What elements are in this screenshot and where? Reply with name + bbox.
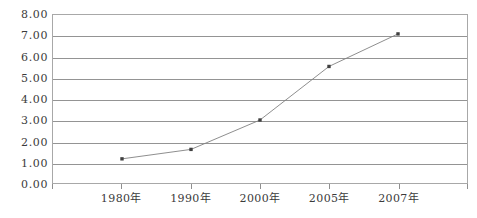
y-tick-label: 7.00	[2, 30, 48, 41]
x-axis-ticks	[52, 184, 468, 189]
y-tick-label: 0.00	[2, 179, 48, 190]
x-tick	[191, 184, 192, 189]
data-point-marker	[327, 65, 330, 68]
x-tick	[260, 184, 261, 189]
y-tick-label: 6.00	[2, 52, 48, 63]
x-tick	[121, 184, 122, 189]
data-point-marker	[396, 32, 399, 35]
data-point-marker	[120, 157, 123, 160]
y-tick-label: 5.00	[2, 73, 48, 84]
x-tick	[399, 184, 400, 189]
x-tick-label: 1980年	[101, 192, 142, 205]
data-point-marker	[258, 118, 261, 121]
y-tick-label: 8.00	[2, 9, 48, 20]
y-tick-label: 4.00	[2, 94, 48, 105]
x-tick-label: 2000年	[240, 192, 281, 205]
plot-area	[52, 14, 468, 184]
x-tick	[467, 184, 468, 189]
y-tick-label: 3.00	[2, 115, 48, 126]
y-axis: 0.001.002.003.004.005.006.007.008.00	[0, 0, 48, 218]
series-line	[122, 34, 398, 159]
x-axis: 1980年1990年2000年2005年2007年	[52, 192, 468, 212]
x-tick-label: 1990年	[170, 192, 211, 205]
x-tick-label: 2007年	[378, 192, 419, 205]
x-tick	[52, 184, 53, 189]
data-point-marker	[189, 148, 192, 151]
x-tick-label: 2005年	[309, 192, 350, 205]
line-chart: 0.001.002.003.004.005.006.007.008.00 198…	[0, 0, 477, 218]
series-layer	[53, 15, 467, 183]
y-tick-label: 2.00	[2, 137, 48, 148]
y-tick-label: 1.00	[2, 158, 48, 169]
x-tick	[329, 184, 330, 189]
